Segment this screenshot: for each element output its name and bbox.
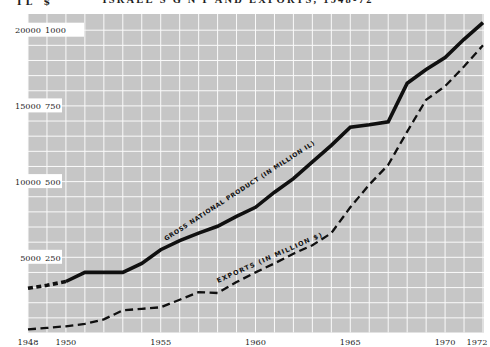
x-axis-tick: 1950 — [55, 337, 76, 347]
y-axis-tick-usd: 750 — [45, 101, 61, 111]
y-axis-tick-usd: 250 — [45, 253, 61, 263]
x-axis-tick: 1948 — [18, 337, 39, 347]
y-axis-tick-usd: 500 — [45, 177, 61, 187]
x-axis-tick: 1965 — [340, 337, 361, 347]
y-axis-tick-il: 20000 — [15, 25, 41, 35]
axis-label-patch — [0, 23, 84, 37]
y-axis-tick-usd: 1000 — [45, 25, 66, 35]
x-axis-tick: 1960 — [245, 337, 266, 347]
y-axis-tick-il: 5000 — [20, 253, 41, 263]
x-axis-tick: 1972 — [467, 337, 488, 347]
x-axis-tick: 1955 — [150, 337, 171, 347]
line-chart: 2000010001500075010000500500025019481950… — [0, 0, 490, 347]
x-axis-tick: 1970 — [435, 337, 456, 347]
y-axis-tick-il: 10000 — [15, 177, 41, 187]
y-axis-tick-il: 15000 — [15, 101, 41, 111]
